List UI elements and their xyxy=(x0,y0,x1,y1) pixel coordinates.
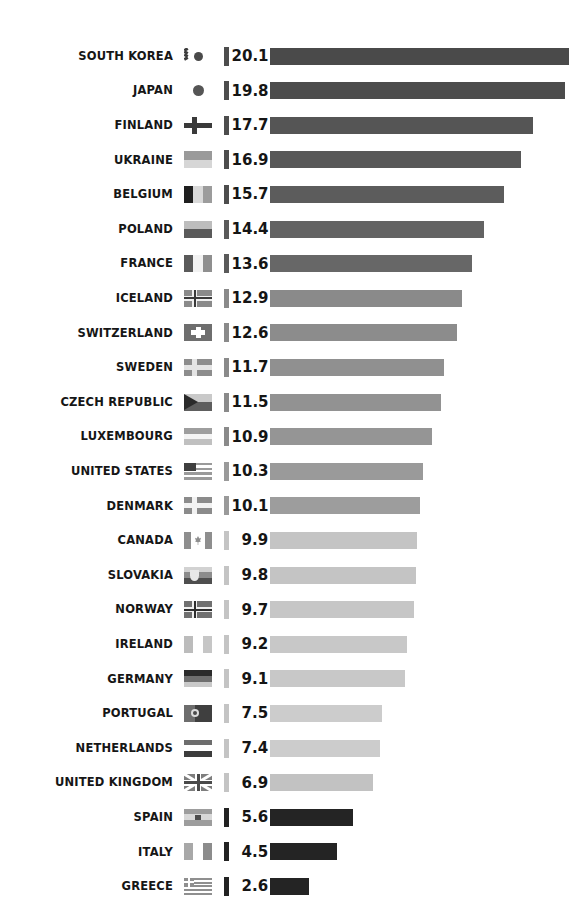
bar xyxy=(270,636,407,653)
country-label: CZECH REPUBLIC xyxy=(14,396,173,409)
value-tick-marker xyxy=(224,739,229,758)
bar-track xyxy=(270,151,578,168)
country-label: LUXEMBOURG xyxy=(14,430,173,443)
value-tick-marker xyxy=(224,531,229,550)
value-label: 9.1 xyxy=(231,671,270,687)
bar-track xyxy=(270,82,578,99)
country-label: SOUTH KOREA xyxy=(14,50,173,63)
slovakia-flag xyxy=(184,567,212,584)
country-label: ICELAND xyxy=(14,292,173,305)
value-tick-marker xyxy=(224,220,229,239)
luxembourg-flag xyxy=(184,428,212,445)
bar-track xyxy=(270,463,578,480)
finland-flag xyxy=(184,117,212,134)
value-label: 9.9 xyxy=(231,532,270,548)
bar xyxy=(270,774,373,791)
netherlands-flag xyxy=(184,740,212,757)
bar xyxy=(270,567,416,584)
chart-row: DENMARK10.1 xyxy=(0,493,578,519)
value-label: 11.7 xyxy=(231,359,270,375)
bar-track xyxy=(270,636,578,653)
czech-republic-flag xyxy=(184,394,212,411)
sweden-flag xyxy=(184,359,212,376)
country-label: SLOVAKIA xyxy=(14,569,173,582)
chart-row: ITALY4.5 xyxy=(0,839,578,865)
ireland-flag xyxy=(184,636,212,653)
country-label: IRELAND xyxy=(14,638,173,651)
value-label: 16.9 xyxy=(231,152,270,168)
chart-row: CANADA9.9 xyxy=(0,527,578,553)
bar xyxy=(270,670,405,687)
bar-track xyxy=(270,394,578,411)
country-label: SPAIN xyxy=(14,811,173,824)
bar-track xyxy=(270,774,578,791)
value-label: 12.9 xyxy=(231,290,270,306)
value-tick-marker xyxy=(224,842,229,861)
bar-track xyxy=(270,428,578,445)
bar-track xyxy=(270,705,578,722)
value-label: 4.5 xyxy=(231,844,270,860)
united-states-flag xyxy=(184,463,212,480)
canada-flag xyxy=(184,532,212,549)
value-label: 9.8 xyxy=(231,567,270,583)
bar-track xyxy=(270,567,578,584)
value-label: 17.7 xyxy=(231,117,270,133)
value-tick-marker xyxy=(224,600,229,619)
japan-flag xyxy=(184,82,212,99)
value-label: 15.7 xyxy=(231,186,270,202)
chart-row: JAPAN19.8 xyxy=(0,78,578,104)
bar xyxy=(270,428,432,445)
value-tick-marker xyxy=(224,254,229,273)
belgium-flag xyxy=(184,186,212,203)
poland-flag xyxy=(184,221,212,238)
value-label: 20.1 xyxy=(231,48,270,64)
bar xyxy=(270,463,423,480)
bar-track xyxy=(270,324,578,341)
bar xyxy=(270,255,472,272)
value-tick-marker xyxy=(224,566,229,585)
bar xyxy=(270,117,533,134)
chart-row: GREECE2.6 xyxy=(0,873,578,899)
value-tick-marker xyxy=(224,358,229,377)
value-label: 7.4 xyxy=(231,740,270,756)
iceland-flag xyxy=(184,290,212,307)
bar-track xyxy=(270,255,578,272)
country-label: SWITZERLAND xyxy=(14,327,173,340)
value-tick-marker xyxy=(224,773,229,792)
bar-track xyxy=(270,117,578,134)
chart-row: SWITZERLAND12.6 xyxy=(0,320,578,346)
bar xyxy=(270,48,569,65)
bar-track xyxy=(270,809,578,826)
bar-track xyxy=(270,601,578,618)
value-tick-marker xyxy=(224,669,229,688)
value-label: 5.6 xyxy=(231,809,270,825)
value-label: 10.3 xyxy=(231,463,270,479)
country-label: DENMARK xyxy=(14,500,173,513)
country-label: UNITED STATES xyxy=(14,465,173,478)
country-label: CANADA xyxy=(14,534,173,547)
bar-track xyxy=(270,670,578,687)
value-label: 6.9 xyxy=(231,775,270,791)
chart-row: LUXEMBOURG10.9 xyxy=(0,424,578,450)
value-label: 7.5 xyxy=(231,705,270,721)
value-tick-marker xyxy=(224,116,229,135)
bar-track xyxy=(270,48,578,65)
switzerland-flag xyxy=(184,324,212,341)
country-label: SWEDEN xyxy=(14,361,173,374)
value-label: 14.4 xyxy=(231,221,270,237)
bar-track xyxy=(270,878,578,895)
chart-row: FINLAND17.7 xyxy=(0,112,578,138)
value-tick-marker xyxy=(224,47,229,66)
chart-row: SPAIN5.6 xyxy=(0,804,578,830)
chart-row: PORTUGAL7.5 xyxy=(0,700,578,726)
bar-track xyxy=(270,497,578,514)
bar-track xyxy=(270,740,578,757)
value-label: 11.5 xyxy=(231,394,270,410)
chart-row: POLAND14.4 xyxy=(0,216,578,242)
value-label: 12.6 xyxy=(231,325,270,341)
bar-track xyxy=(270,290,578,307)
france-flag xyxy=(184,255,212,272)
bar xyxy=(270,843,337,860)
bar-track xyxy=(270,359,578,376)
